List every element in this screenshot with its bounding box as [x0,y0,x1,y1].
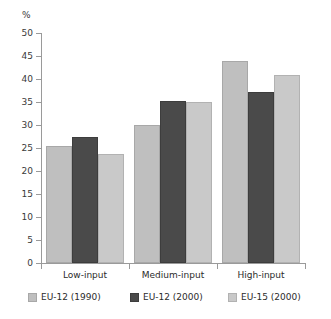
legend-swatch-icon [28,293,37,302]
y-axis-tick-label: 35 [3,98,33,107]
legend-item: EU-12 (1990) [28,290,101,304]
legend-item: EU-12 (2000) [130,290,203,304]
x-axis-tick [217,264,218,269]
legend-swatch-icon [130,293,139,302]
plot-area [41,33,305,263]
legend-label: EU-12 (1990) [41,292,101,302]
legend-label: EU-12 (2000) [143,292,203,302]
y-axis-tick-label: 50 [3,29,33,38]
y-axis-tick-label: 45 [3,52,33,61]
x-axis-tick [129,264,130,269]
y-axis-tick-label: 0 [3,259,33,268]
bar [222,61,248,263]
x-axis-category-label: Medium-input [129,270,217,280]
bar-chart: % 05101520253035404550 Low-inputMedium-i… [0,0,331,319]
x-axis-tick [41,264,42,269]
y-axis-tick-label: 5 [3,236,33,245]
bar [134,125,160,263]
y-axis-tick-label: 10 [3,213,33,222]
chart-legend: EU-12 (1990)EU-12 (2000)EU-15 (2000) [0,290,331,310]
bar [274,75,300,263]
x-axis-line [41,263,306,264]
bar [160,101,186,263]
bar [46,146,72,263]
y-axis-tick-label: 30 [3,121,33,130]
x-axis-category-label: High-input [217,270,305,280]
legend-label: EU-15 (2000) [241,292,301,302]
legend-swatch-icon [228,293,237,302]
y-axis-tick-label: 15 [3,190,33,199]
bar [98,154,124,263]
y-axis-tick-label: 20 [3,167,33,176]
bar [186,102,212,263]
bar [72,137,98,264]
x-axis-category-label: Low-input [41,270,129,280]
legend-item: EU-15 (2000) [228,290,301,304]
y-axis-unit-label: % [22,10,31,20]
x-axis-tick [305,264,306,269]
y-axis-tick-label: 25 [3,144,33,153]
y-axis-tick-label: 40 [3,75,33,84]
bar [248,92,274,263]
